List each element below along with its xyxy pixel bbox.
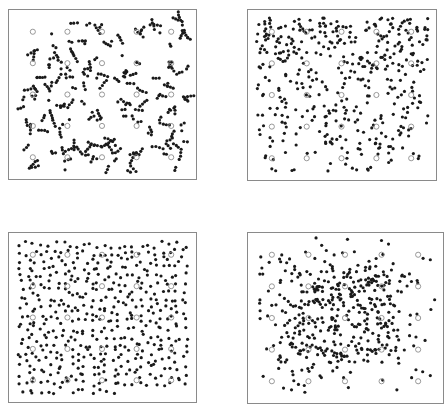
data-point [345,355,348,358]
data-point [279,279,282,282]
data-point [420,61,423,64]
data-point [49,363,52,366]
data-point [166,258,169,261]
data-point [318,130,321,133]
data-point [22,95,25,98]
data-point [72,54,75,57]
grid-marker-open-circle [342,252,347,257]
data-point [155,264,158,267]
data-point [154,377,157,380]
data-point [163,367,166,370]
data-point [281,114,284,117]
data-point [387,151,390,154]
data-point [81,249,84,252]
data-point [83,42,86,45]
data-point [23,297,26,300]
data-point [149,285,152,288]
grid-marker-open-circle [99,378,104,383]
grid-marker-open-circle [374,61,379,66]
data-point [377,334,380,337]
data-point [265,51,268,54]
data-point [58,127,61,130]
data-point [377,338,380,341]
data-point [129,164,132,167]
data-point [337,284,340,287]
data-point [72,261,75,264]
grid-marker-open-circle [134,315,139,320]
data-point [63,160,66,163]
data-point [366,348,369,351]
data-point [152,77,155,80]
data-point [408,272,411,275]
data-point [110,260,113,263]
data-point [379,18,382,21]
data-point [404,29,407,32]
data-point [121,54,124,57]
data-point [405,284,408,287]
data-point [134,357,137,360]
data-point [25,381,28,384]
data-point [169,147,172,150]
data-point [297,383,300,386]
data-point [369,348,372,351]
data-point [333,351,336,354]
data-point [124,71,127,74]
data-point [300,82,303,85]
data-point [76,252,79,255]
data-point [77,39,80,42]
data-point [292,336,295,339]
data-point [412,152,415,155]
data-point [106,258,109,261]
data-point [126,273,129,276]
data-point [281,121,284,124]
data-point [274,52,277,55]
data-point [173,351,176,354]
data-point [57,76,60,79]
data-point [55,81,58,84]
data-point [150,18,153,21]
data-point [334,119,337,122]
data-point [333,332,336,335]
data-point [277,27,280,30]
data-point [74,57,77,60]
data-point [34,355,37,358]
data-point [154,145,157,148]
data-point [346,151,349,154]
data-point [180,129,183,132]
data-point [401,115,404,118]
data-point [324,140,327,143]
data-point [277,367,280,370]
data-point [422,68,425,71]
data-point [301,115,304,118]
data-point [140,320,143,323]
data-point [87,153,90,156]
data-point [328,112,331,115]
data-point [179,155,182,158]
data-point [174,274,177,277]
data-point [62,152,65,155]
data-point [274,169,277,172]
data-point [374,25,377,28]
data-point [389,56,392,59]
data-point [263,48,266,51]
data-point [269,19,272,22]
data-point [55,104,58,107]
data-point [391,17,394,20]
data-point [320,376,323,379]
data-point [118,283,121,286]
data-point [397,338,400,341]
data-point [160,347,163,350]
data-point [47,99,50,102]
data-point [76,256,79,259]
data-point [334,288,337,291]
data-point [59,365,62,368]
data-point [353,360,356,363]
data-point [294,304,297,307]
data-point [373,348,376,351]
data-point [60,146,63,149]
data-point [72,391,75,394]
data-point [352,281,355,284]
grid-marker-open-circle [99,315,104,320]
data-point [30,269,33,272]
grid-marker-open-circle [65,284,70,289]
